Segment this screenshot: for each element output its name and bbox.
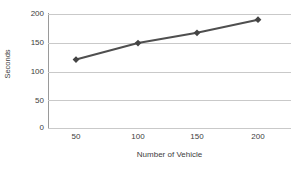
gridline-0 <box>48 128 291 129</box>
data-point-100 <box>135 40 142 47</box>
x-tick-200: 200 <box>238 132 278 141</box>
x-axis-tick-labels: 50 100 150 200 <box>48 132 291 144</box>
x-axis-title: Number of Vehicle <box>48 150 291 160</box>
x-tick-150: 150 <box>177 132 217 141</box>
x-tick-100: 100 <box>118 132 158 141</box>
y-tick-100: 100 <box>10 68 44 76</box>
series-line <box>76 20 258 60</box>
series-seconds <box>48 14 291 128</box>
data-point-150 <box>194 29 201 36</box>
y-tick-200: 200 <box>10 10 44 18</box>
data-point-50 <box>73 56 80 63</box>
series-markers <box>73 16 262 63</box>
x-tick-50: 50 <box>56 132 96 141</box>
data-point-200 <box>255 16 262 23</box>
y-axis-tick-labels: 200 150 100 50 0 <box>6 0 44 171</box>
plot-area <box>48 14 291 128</box>
y-tick-0: 0 <box>10 124 44 132</box>
y-tick-150: 150 <box>10 39 44 47</box>
line-chart: Seconds 200 150 100 50 0 50 100 150 200 … <box>0 0 300 171</box>
y-tick-50: 50 <box>10 97 44 105</box>
